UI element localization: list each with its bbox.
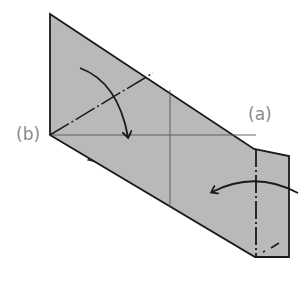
origami-diagram [0,0,307,288]
label-b: (b) [16,126,40,143]
paper-shape [50,14,289,257]
label-a: (a) [248,106,272,123]
corner-crease-dot [263,251,265,252]
